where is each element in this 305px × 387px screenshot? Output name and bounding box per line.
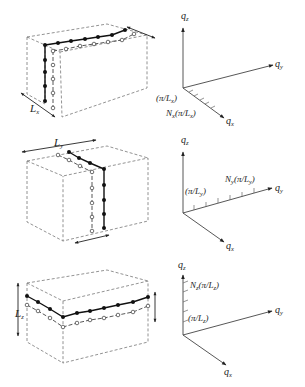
qy-axis [183,65,273,88]
displacement-arrow-y [75,235,109,243]
nth-mode-label-y: Ny(π/Ly) [224,174,255,185]
nth-mode-label-x: Nx(π/Lx) [165,108,196,119]
filled-atom-chain-x [43,28,127,103]
qx-label: qx [224,366,232,378]
dimension-label-ly: Ly [53,136,63,149]
filled-atom-chain-z [25,294,150,319]
qx-axis [183,213,224,242]
first-mode-label-z: (π/Lz) [188,313,209,324]
qx-label: qx [226,240,234,252]
q-axes-z: qz qy qx (π/Lz) Nz(π/Lz) [178,259,283,378]
hollow-atom-chain-x [51,32,136,110]
first-mode-label-y: (π/Ly) [185,186,206,197]
qx-axis [183,335,226,365]
hollow-atom-chain-z [25,303,150,329]
qy-label: qy [275,304,283,316]
figure-canvas: Lx qz qy qx (π/Lx) Nx(π/Lx) [0,0,305,387]
qz-label: qz [181,134,189,146]
crystal-box-z [27,270,148,363]
qx-ticks [189,90,215,108]
dimension-label-lx: Lx [29,102,39,115]
panel-z: Lz qz qy qx (π/Lz) Nz(π/Lz) [14,259,283,378]
qx-label: qx [226,115,234,127]
qy-label: qy [275,58,283,70]
panel-y: Ly qz qy qx (π/Ly) Ny(π/Ly) [22,134,283,252]
nth-mode-label-z: Nz(π/Lz) [189,280,219,291]
first-mode-label-x: (π/Lx) [156,93,177,104]
qy-label: qy [275,182,283,194]
crystal-box-y [27,146,148,241]
panel-x: Lx qz qy qx (π/Lx) Nx(π/Lx) [21,10,283,127]
qz-label: qz [181,10,189,22]
dimension-label-lz: Lz [14,307,24,320]
q-axes-x: qz qy qx (π/Lx) Nx(π/Lx) [156,10,283,127]
hollow-atom-chain-y [56,153,94,233]
qz-label: qz [178,259,186,271]
q-axes-y: qz qy qx (π/Ly) Ny(π/Ly) [181,134,283,252]
filled-atom-chain-y [67,150,106,230]
